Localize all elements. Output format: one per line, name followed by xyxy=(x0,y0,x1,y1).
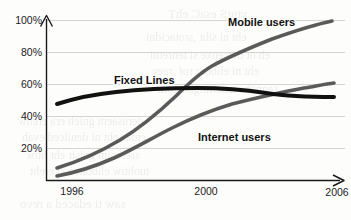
x-tick-label-2000: 2000 xyxy=(194,185,218,197)
series-label-fixed-lines: Fixed Lines xyxy=(114,74,175,86)
y-tick-label-60: 60% xyxy=(21,78,42,90)
series-label-internet-users: Internet users xyxy=(198,131,271,143)
x-tick-label-2006: 2006 xyxy=(325,186,349,198)
gridlines xyxy=(46,21,345,149)
trend-line-chart: 100% 80% 60% 40% 20% 1996 2000 2006 Mobi… xyxy=(0,0,351,220)
series-label-mobile-users: Mobile users xyxy=(228,16,295,28)
x-tick-label-1996: 1996 xyxy=(60,185,84,197)
y-axis xyxy=(41,16,53,182)
chart-page: ytutS esaC ehT eht ni siht ,srotacidni e… xyxy=(0,0,351,220)
y-tick-label-40: 40% xyxy=(21,110,42,122)
y-tick-label-80: 80% xyxy=(21,46,42,58)
y-tick-label-20: 20% xyxy=(21,142,42,154)
y-tick-label-100: 100% xyxy=(15,14,42,26)
